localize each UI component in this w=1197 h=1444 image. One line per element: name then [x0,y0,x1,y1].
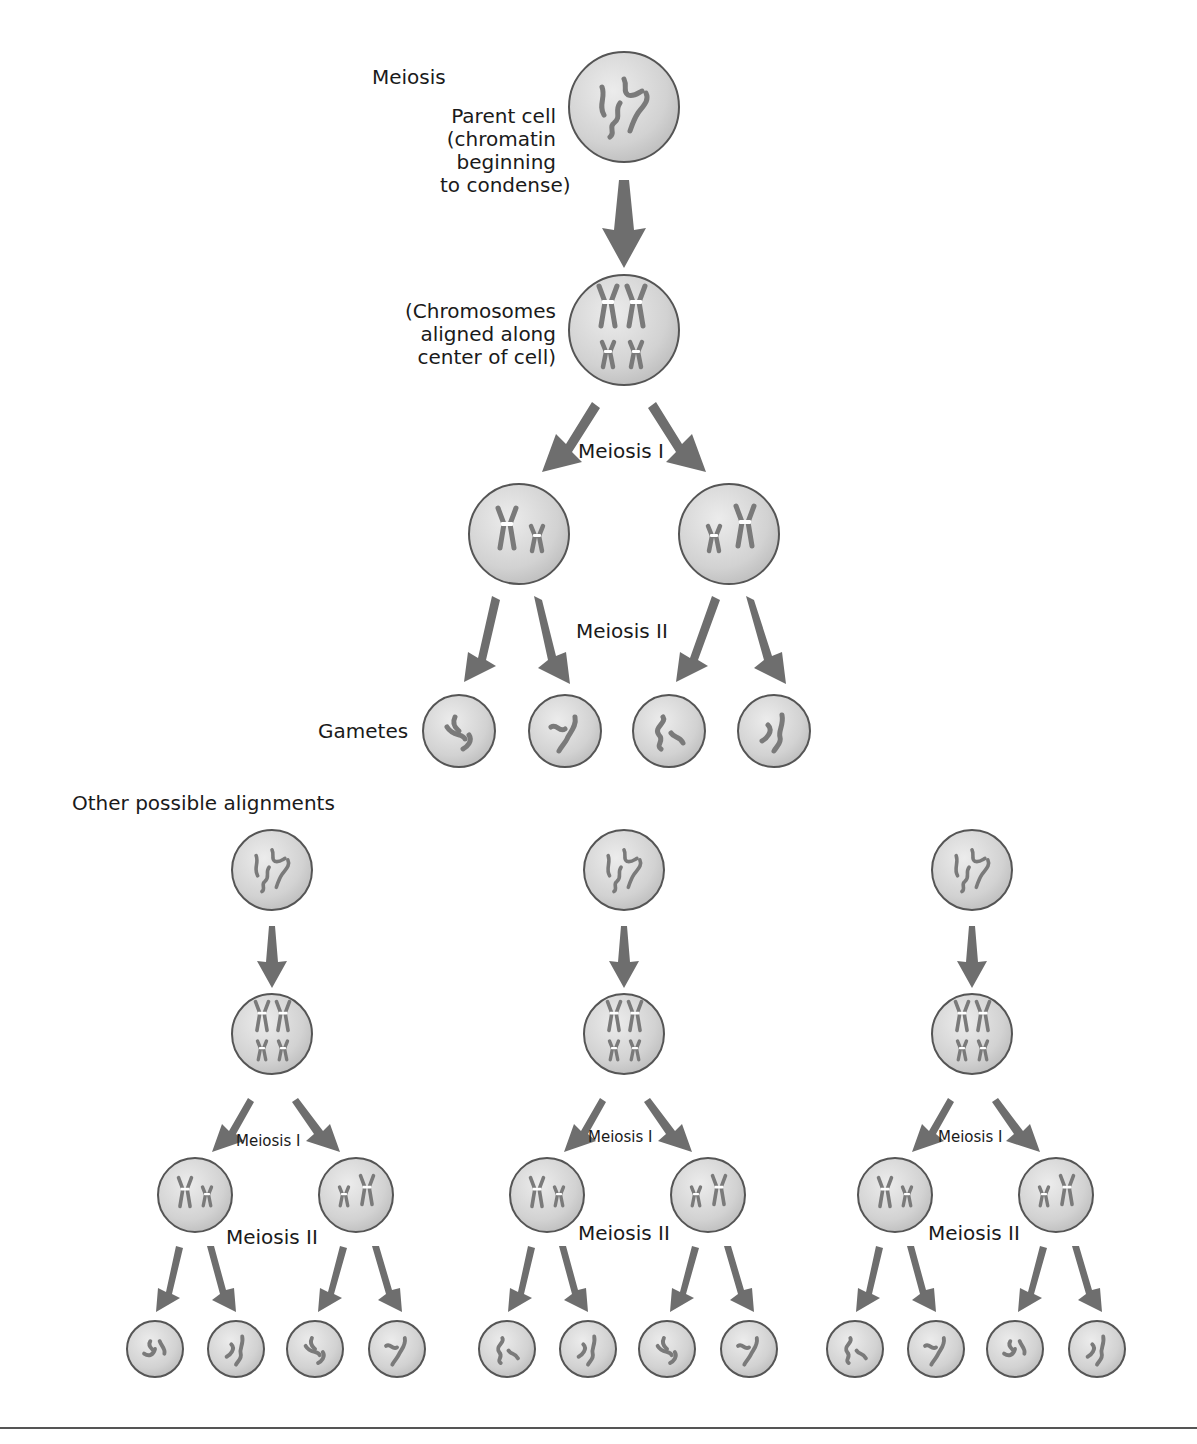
aligned-cell [569,275,679,385]
gamete-cell [529,695,601,767]
parent-cell [569,52,679,162]
alternative-alignment-2 [479,830,777,1377]
gamete-cell [423,695,495,767]
mini-meiosis-1-label: Meiosis I [938,1129,1003,1146]
aligned-cell-label: (Chromosomes aligned along center of cel… [380,300,556,369]
mini-meiosis-2-label: Meiosis II [928,1222,1020,1245]
alternative-alignment-1 [127,830,425,1377]
parent-cell-label-line: (chromatin [440,128,556,151]
mini-meiosis-2-label: Meiosis II [226,1226,318,1249]
meiosis1-cell-left [469,484,569,584]
other-alignments-heading: Other possible alignments [72,792,335,815]
alternative-alignment-3 [827,830,1125,1377]
aligned-cell-label-line: center of cell) [380,346,556,369]
mini-meiosis-1-label: Meiosis I [236,1133,301,1150]
meiosis-2-label: Meiosis II [576,620,668,643]
down-arrow-icon [602,180,646,268]
diagram-title: Meiosis [372,66,446,89]
bottom-divider [0,1427,1197,1429]
aligned-cell-label-line: aligned along [380,323,556,346]
aligned-cell-label-line: (Chromosomes [380,300,556,323]
mini-meiosis-2-label: Meiosis II [578,1222,670,1245]
parent-cell-label-line: Parent cell [440,105,556,128]
meiosis1-cell-right [679,484,779,584]
parent-cell-label-line: to condense) [440,174,556,197]
parent-cell-label: Parent cell (chromatin beginning to cond… [440,105,556,197]
gamete-cell [633,695,705,767]
meiosis-1-label: Meiosis I [578,440,664,463]
parent-cell-label-line: beginning [440,151,556,174]
mini-meiosis-1-label: Meiosis I [588,1129,653,1146]
gamete-cell [738,695,810,767]
gametes-label: Gametes [318,720,408,743]
